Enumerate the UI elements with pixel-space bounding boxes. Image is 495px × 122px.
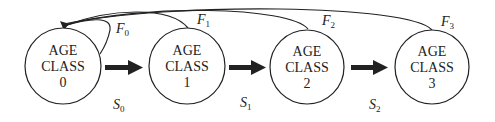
survival-label-s0: S0 bbox=[113, 97, 125, 114]
node-label-line2: CLASS bbox=[410, 60, 454, 75]
node-label-line1: AGE bbox=[418, 44, 447, 59]
survival-arrow-0-icon bbox=[105, 60, 143, 75]
node-label-line2: CLASS bbox=[285, 60, 329, 75]
fecundity-label-f1: F1 bbox=[196, 12, 210, 29]
node-label-line1: AGE bbox=[173, 43, 202, 58]
survival-label-s2: S2 bbox=[369, 97, 381, 114]
node-label-line3: 3 bbox=[429, 76, 436, 91]
fecundity-label-f0: F0 bbox=[115, 21, 130, 38]
survival-label-s1: S1 bbox=[240, 95, 252, 112]
node-label-line3: 0 bbox=[60, 75, 67, 90]
node-label-line2: CLASS bbox=[165, 59, 209, 74]
node-label-line2: CLASS bbox=[41, 59, 85, 74]
node-label-line1: AGE bbox=[49, 43, 78, 58]
survival-arrows bbox=[105, 60, 388, 75]
node-label-line3: 2 bbox=[304, 76, 311, 91]
fecundity-label-f3: F3 bbox=[440, 14, 455, 31]
node-class0: AGE CLASS 0 bbox=[25, 28, 101, 104]
node-class1: AGE CLASS 1 bbox=[149, 28, 225, 104]
leslie-diagram: AGE CLASS 0 AGE CLASS 1 AGE CLASS 2 AGE … bbox=[0, 0, 495, 122]
node-class3: AGE CLASS 3 bbox=[395, 30, 469, 104]
survival-arrow-1-icon bbox=[229, 60, 266, 75]
node-label-line1: AGE bbox=[293, 44, 322, 59]
survival-arrow-2-icon bbox=[351, 60, 388, 75]
fecundity-label-f2: F2 bbox=[321, 13, 335, 30]
node-label-line3: 1 bbox=[184, 75, 191, 90]
node-class2: AGE CLASS 2 bbox=[270, 30, 344, 104]
